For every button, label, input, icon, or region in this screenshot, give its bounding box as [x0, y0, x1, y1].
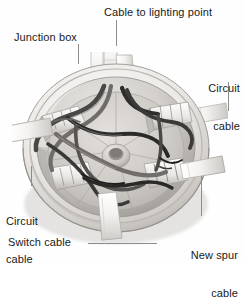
label-circuit-cable-right-line1: Circuit — [208, 82, 240, 95]
label-circuit-cable-right: Circuit cable — [208, 57, 240, 157]
label-switch-cable: Switch cable — [8, 236, 71, 249]
label-new-spur-cable: New spur cable — [191, 224, 238, 301]
leader-line-switch-cable — [88, 243, 157, 244]
leader-line-new-spur-cable — [201, 176, 202, 216]
label-circuit-cable-left-line1: Circuit — [6, 215, 38, 228]
label-circuit-cable-right-line2: cable — [208, 120, 240, 133]
leader-line-junction-box — [78, 44, 79, 64]
label-cable-to-lighting-point: Cable to lighting point — [104, 6, 212, 19]
leader-line-cable-to-lighting — [116, 20, 117, 46]
junction-box-photo — [12, 52, 228, 248]
label-new-spur-cable-line2: cable — [191, 287, 238, 300]
label-junction-box: Junction box — [14, 31, 77, 44]
label-new-spur-cable-line1: New spur — [191, 249, 238, 262]
label-circuit-cable-left-line2: cable — [6, 253, 38, 266]
leader-line-circuit-cable-left — [31, 166, 32, 186]
